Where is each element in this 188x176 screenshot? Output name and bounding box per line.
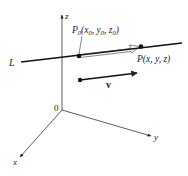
line-L-label: L <box>8 57 15 68</box>
origin-label: 0 <box>54 103 59 113</box>
p0-label: P0(x0, y0, z0) <box>71 25 119 36</box>
x-axis-label: x <box>12 157 17 167</box>
vector-v: v <box>78 73 137 90</box>
point-p0 <box>77 54 82 59</box>
z-axis-label: z <box>64 11 69 21</box>
y-axis-label: y <box>153 132 158 142</box>
p0-leader-line <box>79 36 82 54</box>
y-axis <box>62 110 151 136</box>
hollow-arrow-p0-to-p <box>80 45 140 58</box>
p-label: P(x, y, z) <box>136 54 170 65</box>
point-p <box>139 44 144 49</box>
points <box>77 36 144 58</box>
line-in-space-diagram: z y x 0 L P0(x0, y0, z0) P(x, y, z) v <box>0 0 188 176</box>
vector-v-label: v <box>106 79 111 90</box>
hollow-arrow-icon <box>80 45 140 58</box>
x-axis <box>20 110 62 157</box>
